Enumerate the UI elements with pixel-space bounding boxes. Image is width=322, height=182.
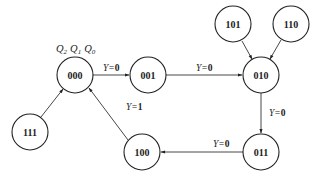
state-label: 110 (284, 19, 298, 30)
state-bits-header: Q2Q1Q0 (56, 43, 96, 56)
state-label: 001 (141, 70, 156, 81)
edge-100-000 (89, 88, 128, 140)
state-101: 101 (215, 6, 251, 42)
edge-label-100-000: Y=1 (126, 102, 143, 112)
state-011: 011 (243, 134, 279, 170)
state-010: 010 (243, 57, 279, 93)
edge-label-000-001: Y=0 (103, 63, 120, 73)
edge-label-011-100: Y=0 (213, 139, 230, 149)
state-label: 000 (68, 70, 83, 81)
edge-101-010 (242, 41, 252, 59)
edge-111-000 (41, 89, 63, 117)
state-001: 001 (130, 57, 166, 93)
state-label: 101 (226, 19, 241, 30)
state-111: 111 (12, 114, 48, 150)
state-000: 000 (57, 57, 93, 93)
edge-label-010-011: Y=0 (269, 108, 286, 118)
state-label: 011 (254, 147, 268, 158)
edge-110-010 (270, 40, 281, 59)
edge-label-001-010: Y=0 (196, 63, 213, 73)
state-label: 010 (254, 70, 269, 81)
state-label: 100 (135, 147, 150, 158)
state-label: 111 (23, 127, 37, 138)
state-diagram: Q2Q1Q0 Y=0 Y=0 Y=0 Y=0 Y=1 000 001 (0, 0, 322, 182)
state-100: 100 (124, 134, 160, 170)
state-110: 110 (273, 6, 309, 42)
